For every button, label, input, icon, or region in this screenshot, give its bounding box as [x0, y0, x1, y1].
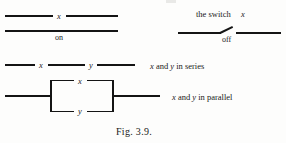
- parallel-description-and: and: [176, 92, 193, 102]
- scan-artifact: [166, 0, 176, 3]
- switch-title-text: the switch: [196, 10, 231, 19]
- parallel-wire-in: [5, 95, 51, 97]
- parallel-bottom-branch-left: [50, 111, 74, 112]
- switch-title-variable: x: [241, 10, 245, 19]
- series-description-and: and: [154, 61, 171, 71]
- switch-on-variable-label: x: [57, 12, 61, 21]
- parallel-left-bus: [50, 80, 52, 112]
- parallel-variable-x: x: [78, 77, 82, 86]
- switch-off-wire-right: [236, 32, 281, 34]
- series-description-suffix: in series: [174, 61, 204, 71]
- switch-off-state-label: off: [222, 36, 231, 44]
- switch-on-state-label: on: [55, 34, 63, 42]
- figure-caption: Fig. 3.9.: [116, 126, 152, 137]
- parallel-bottom-branch-right: [87, 111, 114, 112]
- switch-on-wire-right: [66, 15, 118, 17]
- series-wire-segment-1: [5, 64, 35, 66]
- parallel-top-branch-left: [50, 80, 74, 81]
- parallel-variable-y: y: [78, 107, 82, 116]
- parallel-description-suffix: in parallel: [196, 92, 232, 102]
- switch-on-closed-wire: [5, 30, 118, 32]
- switch-on-wire-left: [5, 15, 53, 17]
- parallel-wire-out: [113, 95, 160, 97]
- parallel-top-branch-right: [87, 80, 114, 81]
- switch-off-wire-left: [178, 32, 221, 34]
- series-variable-x: x: [39, 61, 43, 70]
- series-variable-y: y: [89, 61, 93, 70]
- series-wire-segment-2: [48, 64, 85, 66]
- parallel-description: x and y in parallel: [172, 92, 232, 102]
- figure-3-9: x on the switch x off x y x and y in ser…: [0, 0, 286, 143]
- series-wire-segment-3: [97, 64, 135, 66]
- switch-off-open-arm: [220, 26, 233, 34]
- series-description: x and y in series: [150, 61, 204, 71]
